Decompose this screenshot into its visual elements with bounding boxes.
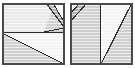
- right-square: [70, 3, 132, 64]
- figure-container: [0, 0, 135, 68]
- partitioned-squares-diagram: [0, 0, 135, 68]
- left-square-texture: [2, 3, 64, 64]
- left-square: [2, 3, 64, 64]
